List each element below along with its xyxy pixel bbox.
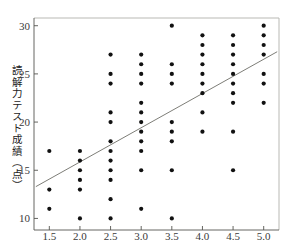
- data-point: [262, 53, 266, 57]
- data-point: [139, 139, 143, 143]
- data-point: [231, 72, 235, 76]
- data-point: [139, 101, 143, 105]
- data-point: [170, 72, 174, 76]
- data-point: [78, 187, 82, 191]
- data-point: [200, 72, 204, 76]
- data-point: [200, 62, 204, 66]
- data-point: [139, 110, 143, 114]
- data-point: [231, 43, 235, 47]
- x-tick-label: 5.0: [249, 230, 279, 242]
- data-point: [108, 139, 112, 143]
- data-point: [200, 53, 204, 57]
- x-tick-label: 1.5: [34, 230, 64, 242]
- data-point: [231, 168, 235, 172]
- data-point: [78, 178, 82, 182]
- data-point: [108, 216, 112, 220]
- data-point: [139, 53, 143, 57]
- data-point: [139, 130, 143, 134]
- data-point: [262, 43, 266, 47]
- data-point: [200, 81, 204, 85]
- data-point: [78, 168, 82, 172]
- data-point: [78, 159, 82, 163]
- data-point: [47, 187, 51, 191]
- data-point: [108, 81, 112, 85]
- x-tick-label: 4.5: [218, 230, 248, 242]
- data-point: [139, 81, 143, 85]
- data-point: [231, 91, 235, 95]
- data-point: [200, 33, 204, 37]
- data-point: [108, 110, 112, 114]
- data-point: [231, 101, 235, 105]
- regression-line: [36, 52, 277, 187]
- data-point: [108, 53, 112, 57]
- data-point: [108, 149, 112, 153]
- data-point: [139, 207, 143, 211]
- data-point: [108, 72, 112, 76]
- data-point: [139, 72, 143, 76]
- data-point: [231, 62, 235, 66]
- data-point: [170, 24, 174, 28]
- data-point: [170, 139, 174, 143]
- data-point: [231, 130, 235, 134]
- data-point: [108, 159, 112, 163]
- data-point: [231, 33, 235, 37]
- data-point: [108, 168, 112, 172]
- x-tick-label: 3.0: [126, 230, 156, 242]
- data-point: [139, 168, 143, 172]
- x-tick-label: 3.5: [157, 230, 187, 242]
- data-point: [170, 168, 174, 172]
- data-point: [170, 81, 174, 85]
- data-point: [231, 53, 235, 57]
- data-point: [170, 120, 174, 124]
- data-point: [200, 43, 204, 47]
- data-point: [47, 207, 51, 211]
- data-point: [139, 120, 143, 124]
- data-point: [262, 24, 266, 28]
- data-point: [200, 110, 204, 114]
- data-point: [108, 178, 112, 182]
- data-point: [262, 33, 266, 37]
- data-point: [200, 130, 204, 134]
- data-point: [200, 91, 204, 95]
- data-point: [108, 120, 112, 124]
- data-point: [170, 62, 174, 66]
- scatter-chart: 読解力テスト成績（点） 1015202530 1.52.02.53.03.54.…: [0, 0, 288, 251]
- data-point: [170, 216, 174, 220]
- data-point: [78, 216, 82, 220]
- data-point: [139, 149, 143, 153]
- data-point: [170, 130, 174, 134]
- data-point: [78, 149, 82, 153]
- data-point: [139, 62, 143, 66]
- data-point: [262, 101, 266, 105]
- plot-area: [0, 0, 288, 251]
- x-tick-label: 2.5: [96, 230, 126, 242]
- data-point: [231, 81, 235, 85]
- data-point: [262, 72, 266, 76]
- data-point: [262, 81, 266, 85]
- data-point: [108, 197, 112, 201]
- data-point: [47, 149, 51, 153]
- x-tick-label: 4.0: [187, 230, 217, 242]
- x-tick-label: 2.0: [65, 230, 95, 242]
- x-axis-tick-labels: 1.52.02.53.03.54.04.55.0: [0, 230, 288, 248]
